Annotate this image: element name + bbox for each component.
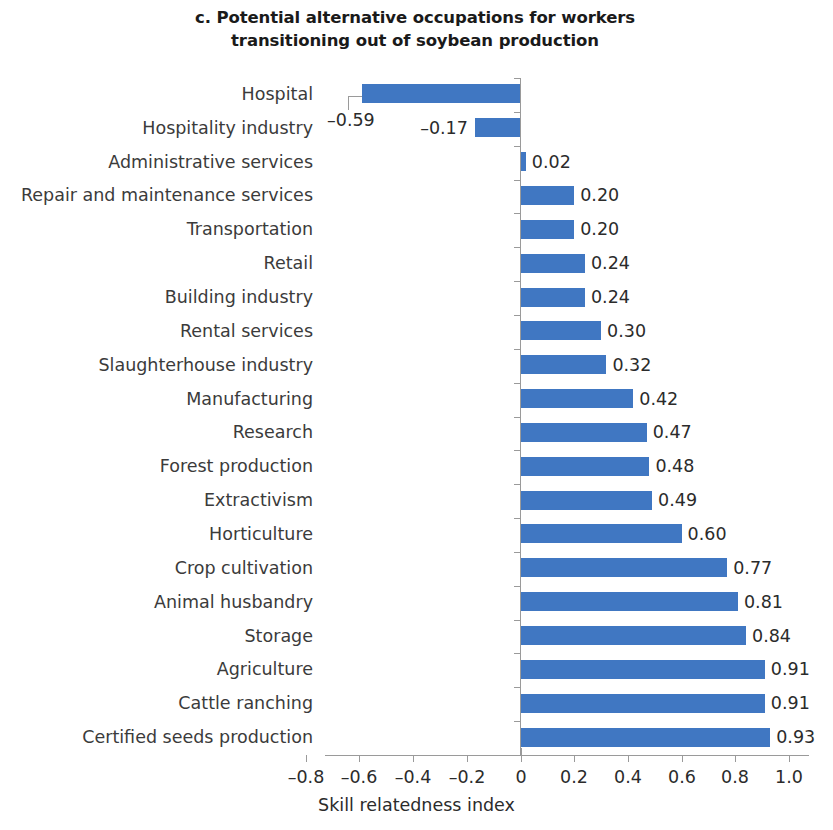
- category-label: Cattle ranching: [178, 693, 313, 713]
- bar-value-label: 0.20: [580, 219, 619, 239]
- category-label-row: Slaughterhouse industry: [0, 355, 313, 375]
- category-label-row: Hospitality industry: [0, 118, 313, 138]
- category-label-row: Hospital: [0, 84, 313, 104]
- x-axis-tick: [359, 755, 360, 762]
- category-label: Certified seeds production: [82, 727, 313, 747]
- x-axis-line: [325, 755, 809, 756]
- x-axis-tick-label: 0.4: [614, 766, 642, 788]
- category-tick: [514, 213, 521, 214]
- category-label: Horticulture: [209, 524, 313, 544]
- x-axis-tick-label: –0.4: [395, 766, 432, 788]
- x-axis-tick: [574, 755, 575, 762]
- bar[interactable]: [521, 694, 765, 713]
- category-label-row: Transportation: [0, 219, 313, 239]
- category-label: Rental services: [180, 321, 313, 341]
- x-axis-tick: [628, 755, 629, 762]
- category-tick: [514, 112, 521, 113]
- category-tick: [514, 417, 521, 418]
- category-tick: [514, 146, 521, 147]
- category-tick: [514, 687, 521, 688]
- bar-value-label: –0.17: [420, 118, 468, 138]
- category-label-row: Storage: [0, 626, 313, 646]
- x-axis-tick-label: 0: [515, 766, 526, 788]
- bar[interactable]: [521, 728, 771, 747]
- bar-value-label: 0.77: [733, 558, 772, 578]
- category-label-row: Forest production: [0, 456, 313, 476]
- category-label-row: Certified seeds production: [0, 727, 313, 747]
- category-label: Storage: [245, 626, 313, 646]
- x-axis-tick-label: –0.8: [288, 766, 325, 788]
- bar-value-label: 0.48: [655, 456, 694, 476]
- bar-value-label: 0.32: [612, 355, 651, 375]
- category-tick: [514, 315, 521, 316]
- category-label-row: Extractivism: [0, 490, 313, 510]
- category-label-row: Agriculture: [0, 659, 313, 679]
- bar[interactable]: [521, 254, 585, 273]
- x-axis-tick-label: –0.2: [449, 766, 486, 788]
- x-axis-tick: [467, 755, 468, 762]
- bar[interactable]: [521, 524, 682, 543]
- category-label: Transportation: [187, 219, 313, 239]
- category-tick: [514, 721, 521, 722]
- category-label-row: Research: [0, 422, 313, 442]
- bar-value-label: 0.81: [744, 592, 783, 612]
- x-axis-tick: [521, 748, 522, 762]
- bar[interactable]: [521, 423, 647, 442]
- category-label-row: Cattle ranching: [0, 693, 313, 713]
- bar-value-label: 0.20: [580, 185, 619, 205]
- bar-value-label: 0.91: [771, 659, 810, 679]
- category-tick: [514, 484, 521, 485]
- category-tick: [514, 383, 521, 384]
- bar[interactable]: [521, 592, 738, 611]
- x-axis-tick: [789, 755, 790, 762]
- bar-value-label: 0.84: [752, 626, 791, 646]
- category-tick: [514, 620, 521, 621]
- category-label: Slaughterhouse industry: [98, 355, 313, 375]
- category-label-row: Administrative services: [0, 152, 313, 172]
- bar[interactable]: [521, 558, 728, 577]
- category-label-row: Building industry: [0, 287, 313, 307]
- bar[interactable]: [521, 186, 575, 205]
- figure: c. Potential alternative occupations for…: [0, 0, 833, 830]
- category-label-row: Horticulture: [0, 524, 313, 544]
- bar[interactable]: [521, 220, 575, 239]
- category-label-row: Animal husbandry: [0, 592, 313, 612]
- bar[interactable]: [521, 288, 585, 307]
- x-axis-tick: [306, 755, 307, 762]
- category-label-row: Crop cultivation: [0, 558, 313, 578]
- bar[interactable]: [521, 626, 747, 645]
- bar-value-label: 0.93: [776, 727, 815, 747]
- x-axis-tick-label: –0.6: [341, 766, 378, 788]
- bar[interactable]: [475, 118, 521, 137]
- bar[interactable]: [521, 660, 765, 679]
- bar[interactable]: [521, 321, 602, 340]
- x-axis-tick: [682, 755, 683, 762]
- category-tick: [514, 450, 521, 451]
- category-label: Animal husbandry: [154, 592, 313, 612]
- bar-value-label: 0.47: [653, 422, 692, 442]
- bar[interactable]: [362, 84, 520, 103]
- bar[interactable]: [521, 457, 650, 476]
- value-leader-line-vertical: [348, 96, 349, 110]
- bar[interactable]: [521, 389, 634, 408]
- category-tick: [514, 281, 521, 282]
- category-tick: [514, 755, 521, 756]
- bar-value-label: –0.59: [327, 110, 375, 130]
- category-label: Crop cultivation: [175, 558, 313, 578]
- category-label: Research: [233, 422, 313, 442]
- bar-value-label: 0.30: [607, 321, 646, 341]
- bar[interactable]: [521, 355, 607, 374]
- x-axis-tick-label: 0.2: [560, 766, 588, 788]
- plot-area: Hospital–0.59Hospitality industry–0.17Ad…: [0, 0, 833, 830]
- category-tick: [514, 349, 521, 350]
- bar-value-label: 0.24: [591, 287, 630, 307]
- category-label-row: Manufacturing: [0, 389, 313, 409]
- category-tick: [514, 552, 521, 553]
- bar-value-label: 0.49: [658, 490, 697, 510]
- x-axis-tick-label: 0.6: [668, 766, 696, 788]
- bar[interactable]: [521, 491, 653, 510]
- x-axis-tick-label: 0.8: [721, 766, 749, 788]
- bar[interactable]: [521, 152, 526, 171]
- x-axis-tick: [413, 755, 414, 762]
- category-label: Hospital: [242, 84, 313, 104]
